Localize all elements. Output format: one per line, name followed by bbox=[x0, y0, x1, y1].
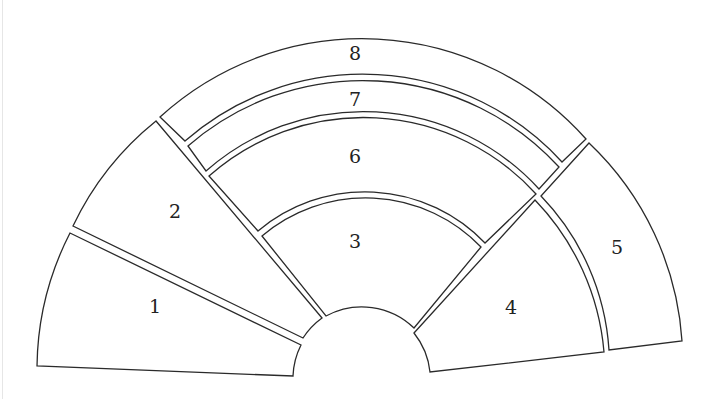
region-8-label: 8 bbox=[349, 42, 361, 64]
region-5-label: 5 bbox=[611, 236, 623, 258]
region-4-label: 4 bbox=[505, 296, 517, 318]
sector-diagram: 8 7 6 3 2 1 4 5 bbox=[0, 0, 720, 399]
region-6-label: 6 bbox=[349, 145, 361, 167]
region-2-label: 2 bbox=[169, 200, 181, 222]
region-1-label: 1 bbox=[149, 295, 161, 317]
region-3-label: 3 bbox=[349, 230, 361, 252]
region-7-label: 7 bbox=[349, 88, 361, 110]
